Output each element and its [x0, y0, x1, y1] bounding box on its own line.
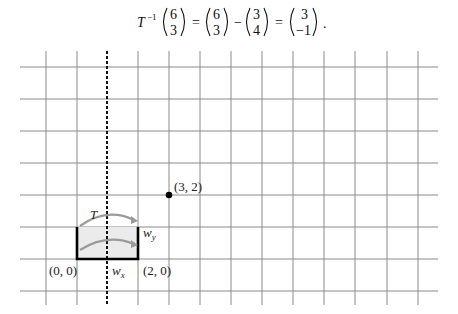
arrow-head-icon	[131, 216, 138, 224]
wx-base: w	[112, 263, 121, 278]
wx-label: wx	[112, 263, 125, 279]
origin-label: (0, 0)	[49, 263, 77, 279]
transform-label: T	[90, 207, 97, 223]
corner-label: (2, 0)	[143, 263, 171, 279]
wy-subscript: y	[152, 232, 156, 242]
point-3-2	[166, 192, 173, 199]
wy-base: w	[143, 225, 152, 240]
wx-subscript: x	[121, 270, 125, 280]
grid-lines	[20, 51, 438, 305]
wy-label: wy	[143, 225, 156, 241]
point-label: (3, 2)	[174, 179, 202, 195]
